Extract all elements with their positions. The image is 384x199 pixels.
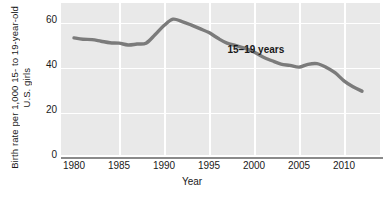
y-axis-tick-labels: 60 40 20 0 <box>38 0 57 175</box>
y-axis-label: Birth rate per 1,000 15- to 19-year-old … <box>0 0 40 175</box>
x-tick-label: 2000 <box>243 160 265 171</box>
x-tick-label: 1985 <box>108 160 130 171</box>
x-tick-label: 1990 <box>153 160 175 171</box>
y-tick-label: 0 <box>38 149 57 160</box>
plot-area: 15–19 years <box>61 3 380 156</box>
x-tick-label: 1995 <box>198 160 220 171</box>
y-axis-label-line-1: Birth rate per 1,000 15- to 19-year-old <box>9 6 21 169</box>
series-line-15-19-years <box>61 3 380 156</box>
x-axis-baseline <box>61 157 383 159</box>
x-tick-label: 2005 <box>288 160 310 171</box>
y-tick-label: 40 <box>38 59 57 70</box>
x-axis-tick-labels: 1980 1985 1990 1995 2000 2005 2010 <box>0 160 384 176</box>
y-tick-label: 20 <box>38 104 57 115</box>
x-tick-label: 1980 <box>63 160 85 171</box>
x-axis-label: Year <box>0 176 384 187</box>
chart-figure: Birth rate per 1,000 15- to 19-year-old … <box>0 0 384 199</box>
x-tick-label: 2010 <box>333 160 355 171</box>
y-tick-label: 60 <box>38 14 57 25</box>
y-axis-label-line-2: U.S. girls <box>21 68 33 108</box>
series-annotation-15-19-years: 15–19 years <box>228 44 285 55</box>
